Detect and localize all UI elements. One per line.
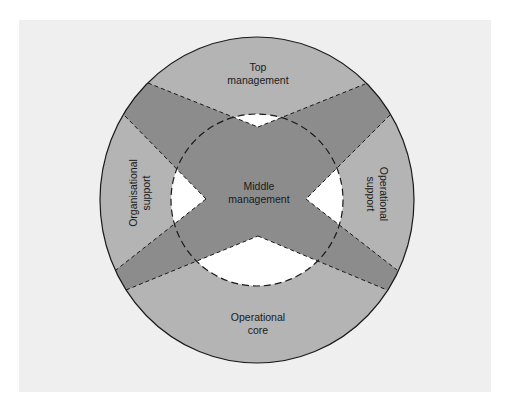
svg-text:Top: Top [250,61,267,73]
svg-text:core: core [248,324,269,336]
svg-text:management: management [228,193,289,205]
svg-text:Operational: Operational [378,167,390,221]
svg-text:management: management [227,74,288,86]
svg-text:Operational: Operational [231,311,285,323]
svg-text:support: support [140,175,152,210]
svg-text:Organisational: Organisational [127,159,139,227]
organisation-circle-diagram: Top management Middle management Organis… [0,0,511,397]
svg-text:support: support [365,176,377,211]
svg-text:Middle: Middle [244,180,275,192]
